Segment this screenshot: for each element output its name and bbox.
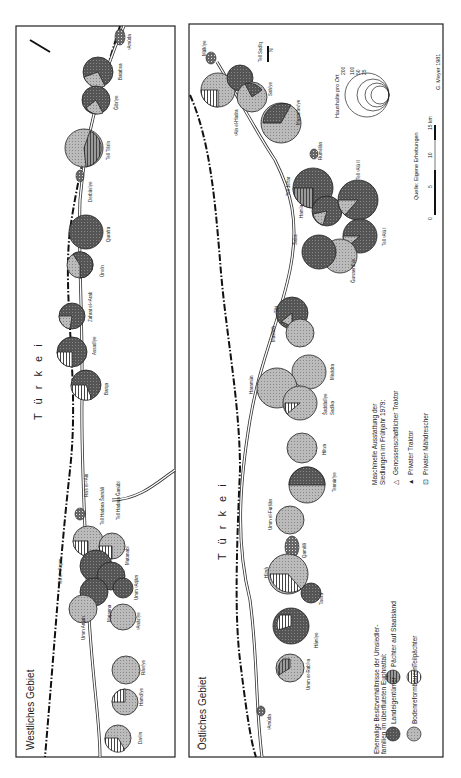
place-qamisli: Qamišli bbox=[302, 543, 307, 558]
place-tibi: Tibi bbox=[274, 306, 279, 313]
place-mustafawiye: Mustafāwīye bbox=[296, 99, 301, 125]
scale-15: 15 km bbox=[427, 116, 433, 130]
place-hamiye: Hāmīye bbox=[314, 632, 319, 648]
east-panel-title: Östliches Gebiet bbox=[197, 676, 208, 750]
legend-coop-tractor: Genossenschaftlicher Traktor bbox=[392, 390, 399, 475]
place-tennuriye: Tennūrīye bbox=[332, 472, 337, 492]
legend-symbol-private-tractor: ▲ bbox=[407, 479, 414, 485]
place-zahrat-el-arab: Zahrat el-ᶜArab bbox=[88, 291, 93, 322]
place-mutanabi: Mutanabi bbox=[125, 546, 130, 565]
place-assadiye: Assadīye bbox=[92, 336, 97, 355]
place-derbasiye: Derbāsīye bbox=[88, 181, 93, 202]
place-ras-el-ain: Ra's el-ᶜAin bbox=[84, 473, 89, 497]
author-label: G. Meyer 1981 bbox=[435, 54, 441, 90]
place-hamdiye: Hamdīye bbox=[139, 687, 144, 706]
place-sahiye: Sahīye bbox=[268, 81, 273, 96]
place-urwin: Ūrwīn bbox=[99, 265, 105, 277]
place-mashuh: Mašhūh bbox=[271, 325, 276, 342]
place-tell-hadara-samali: Tell Hadara Šamāli bbox=[99, 487, 105, 525]
legend-size-25: 25 bbox=[361, 69, 367, 75]
place-malkiye: Mālkīye bbox=[202, 40, 207, 56]
place-amuda-east: ᶜAmūda bbox=[267, 714, 272, 730]
legend-bodenreform: Bodenreformbauern bbox=[411, 666, 418, 724]
place-tell-el-arqan: Tell el-ᶜArqan bbox=[58, 558, 63, 585]
legend-equipment-title-2: Siedlungen im Frühjahr 1979: bbox=[379, 400, 387, 485]
place-daim: Daᶜīm bbox=[138, 731, 143, 744]
place-majanna: Majanna bbox=[107, 604, 112, 622]
place-ain-el-hadra: ᶜAin el-Hadra bbox=[234, 109, 239, 136]
legend-landeigentuemer: Landeigentümer bbox=[390, 676, 398, 724]
place-tell-tisrin: Tell Tišrīn bbox=[106, 140, 111, 160]
place-rumelan: Rumēlān bbox=[318, 141, 323, 160]
scale-10: 10 bbox=[427, 152, 433, 158]
legend-symbol-coop-tractor: △ bbox=[392, 479, 399, 485]
map-figure: Westliches Gebiet T ü r k e i Östliches … bbox=[0, 0, 461, 778]
place-hilwa: Hilwa bbox=[322, 444, 327, 455]
place-gibriye: Ğibrīye bbox=[113, 95, 119, 110]
legend-size-title: Haushalte pro Ort bbox=[334, 74, 340, 118]
place-umm-el-fursan: Umm el-Furšān bbox=[268, 498, 273, 530]
place-barqa: Barqa bbox=[104, 382, 109, 395]
place-umm-er-rabia: Umm er-Rabīᶜa bbox=[306, 658, 311, 690]
legend-equipment-title-1: Maschinelle Ausstattung der bbox=[371, 403, 379, 485]
legend-size-200: 200 bbox=[340, 66, 346, 75]
place-tell-alu-2: Tell ᶜAlū II bbox=[356, 160, 361, 180]
place-rawiye: Rāwīye bbox=[141, 659, 146, 675]
place-hima: Hīmā bbox=[264, 567, 269, 578]
legend-symbol-harvester: ⊡ bbox=[422, 479, 429, 485]
legend-ownership-title-2: familien im überfluteten Euphrattal: bbox=[380, 653, 388, 754]
place-tell-hadara-ganubi: Tell Hadara Ğanūbi bbox=[115, 481, 121, 520]
scale-0: 0 bbox=[427, 217, 433, 220]
scale-5: 5 bbox=[427, 185, 433, 188]
place-haramun: Haramūn bbox=[249, 375, 254, 394]
place-tell-alu-1: Tell ᶜAlū I bbox=[382, 227, 387, 246]
place-sadika: Sadīka bbox=[330, 400, 335, 415]
west-panel-title: Westliches Gebiet bbox=[25, 669, 36, 750]
place-guwaerdiye: Ğuwaerdīye bbox=[350, 258, 356, 283]
legend-harvester: Privater Mähdrescher bbox=[422, 412, 429, 475]
place-hamia: Hamīa bbox=[299, 204, 304, 218]
place-umm-arjam: Umm ᶜArjām bbox=[134, 574, 139, 600]
place-tell-jeffar: Tell Jeffar bbox=[286, 176, 291, 196]
west-country-label: T ü r k e i bbox=[32, 341, 44, 420]
legend-paechter: Pächter auf Staatsland bbox=[390, 601, 397, 667]
place-batabsa: Batabsa bbox=[118, 63, 123, 80]
place-qurafra: Qurafra bbox=[106, 226, 111, 242]
place-anaziye: ᶜAnāzīye bbox=[136, 612, 141, 630]
legend-teilpaechter: Teilpächter bbox=[411, 635, 419, 667]
north-label: N bbox=[268, 48, 274, 52]
source-label: Quelle: Eigene Erhebungen bbox=[413, 132, 419, 200]
place-amuda-west: ᶜAmūda bbox=[127, 34, 132, 50]
place-saddadiye: Šaddādīye bbox=[322, 393, 328, 415]
place-umm-arqan: Umm Arqan bbox=[81, 616, 86, 640]
legend-private-tractor: Privater Traktor bbox=[407, 430, 414, 475]
place-tell-sadiq: Tell Sadīq bbox=[258, 42, 263, 62]
east-country-label: T ü r k e i bbox=[216, 481, 228, 560]
place-tawra: Tawra bbox=[319, 592, 324, 605]
place-misadra: Misādra bbox=[330, 363, 335, 380]
place-saba: Šaba bbox=[292, 234, 298, 245]
